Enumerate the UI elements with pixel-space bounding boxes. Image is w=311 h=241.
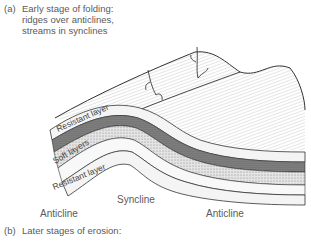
- caption-panel-b: (b)Later stages of erosion:: [4, 225, 121, 236]
- label-anticline-right: Anticline: [206, 208, 244, 219]
- panel-a-marker: (a): [4, 3, 22, 14]
- caption-line-1: Early stage of folding:: [22, 3, 113, 14]
- panel-b-marker: (b): [4, 225, 22, 236]
- label-syncline: Syncline: [117, 194, 155, 205]
- caption-panel-a: (a)Early stage of folding: ridges over a…: [4, 3, 114, 36]
- caption-line-3: streams in synclines: [4, 25, 114, 36]
- folded-strata-illustration: Resistant layer Soft layers Resistant la…: [0, 0, 311, 241]
- caption-line-2: ridges over anticlines,: [4, 14, 114, 25]
- label-anticline-left: Anticline: [40, 208, 78, 219]
- caption-b-text: Later stages of erosion:: [22, 225, 121, 236]
